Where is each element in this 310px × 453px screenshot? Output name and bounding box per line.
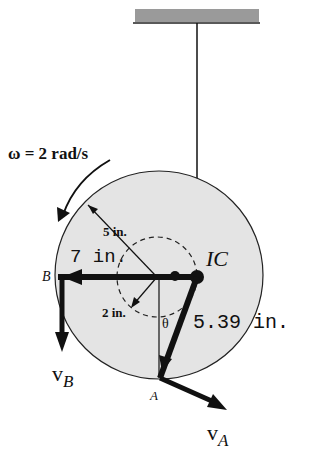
- theta-label: θ: [162, 317, 169, 331]
- velocity-A-arrow: [160, 378, 214, 402]
- inner-radius-label: 2 in.: [102, 306, 126, 319]
- kinematics-diagram: ω = 2 rad/s 5 in. 7 in. IC B 2 in. θ 5.3…: [0, 0, 310, 453]
- velocity-A-label: vA: [207, 422, 228, 444]
- ceiling-support: [135, 9, 259, 22]
- point-A-label: A: [150, 389, 158, 402]
- point-B-label: B: [42, 270, 51, 284]
- distance-A-label: 5.39 in.: [193, 313, 289, 333]
- outer-radius-label: 5 in.: [103, 225, 127, 238]
- velocity-B-label: vB: [52, 363, 73, 385]
- distance-B-label: 7 in.: [70, 248, 127, 267]
- angular-velocity-label: ω = 2 rad/s: [8, 145, 88, 162]
- ic-label: IC: [206, 248, 228, 270]
- diagram-graphics: [0, 0, 310, 453]
